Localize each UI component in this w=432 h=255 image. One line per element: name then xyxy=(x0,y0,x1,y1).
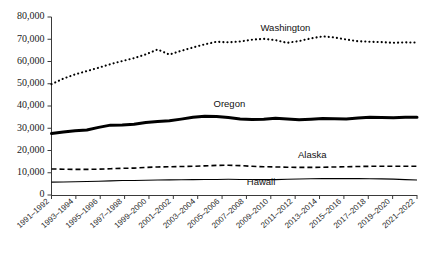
x-axis-tick-labels: 1991–19921993–19941995–19961997–19981999… xyxy=(15,196,417,230)
y-tick-label: 10,000 xyxy=(17,166,45,177)
y-tick-label: 60,000 xyxy=(17,55,45,66)
y-axis-ticks: 010,00020,00030,00040,00050,00060,00070,… xyxy=(17,10,52,199)
series-label-alaska: Alaska xyxy=(298,149,327,160)
y-tick-label: 50,000 xyxy=(17,77,45,88)
y-axis: 010,00020,00030,00040,00050,00060,00070,… xyxy=(17,10,52,199)
series-line-alaska xyxy=(52,165,418,169)
y-tick-label: 30,000 xyxy=(17,122,45,133)
y-tick-label: 20,000 xyxy=(17,144,45,155)
series-label-washington: Washington xyxy=(261,22,311,33)
series-line-washington xyxy=(52,36,418,84)
y-tick-label: 80,000 xyxy=(17,10,45,21)
y-tick-label: 40,000 xyxy=(17,99,45,110)
line-chart: 010,00020,00030,00040,00050,00060,00070,… xyxy=(0,0,432,255)
series-labels-group: WashingtonOregonAlaskaHawaii xyxy=(214,22,328,186)
y-tick-label: 70,000 xyxy=(17,33,45,44)
series-line-hawaii xyxy=(52,179,418,182)
series-label-oregon: Oregon xyxy=(214,98,246,109)
data-series-group xyxy=(52,36,418,182)
series-line-oregon xyxy=(52,116,418,133)
series-label-hawaii: Hawaii xyxy=(247,176,276,187)
chart-container: 010,00020,00030,00040,00050,00060,00070,… xyxy=(0,0,432,255)
